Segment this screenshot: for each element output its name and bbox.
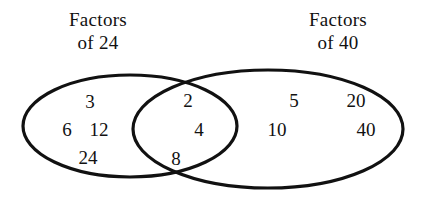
left-set-label: Factors of 24 <box>28 8 168 54</box>
venn-number-left_only-12: 12 <box>90 120 109 139</box>
venn-diagram: Factors of 24 Factors of 40 361224248520… <box>0 0 423 201</box>
venn-number-right_only-5: 5 <box>289 91 299 110</box>
venn-number-left_only-3: 3 <box>85 92 95 111</box>
left-set-label-line2: of 24 <box>28 31 168 54</box>
left-set-label-line1: Factors <box>28 8 168 31</box>
venn-number-right_only-20: 20 <box>347 91 366 110</box>
left-set-ellipse <box>23 75 237 177</box>
venn-number-left_only-6: 6 <box>62 120 72 139</box>
venn-number-right_only-10: 10 <box>268 120 287 139</box>
venn-number-right_only-40: 40 <box>357 120 376 139</box>
venn-number-intersection-4: 4 <box>194 120 204 139</box>
right-set-label: Factors of 40 <box>268 8 408 54</box>
venn-number-intersection-8: 8 <box>171 149 181 168</box>
venn-number-left_only-24: 24 <box>79 148 98 167</box>
right-set-label-line1: Factors <box>268 8 408 31</box>
right-set-label-line2: of 40 <box>268 31 408 54</box>
venn-number-intersection-2: 2 <box>183 91 193 110</box>
